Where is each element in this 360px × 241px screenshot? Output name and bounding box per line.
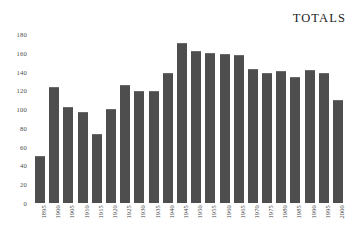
x-axis-tick-label: 1950 <box>196 205 203 219</box>
x-axis-tick-label: 1935 <box>154 205 161 219</box>
bar-series <box>33 34 345 203</box>
plot-area <box>33 33 345 203</box>
y-axis-tick-label: 0 <box>24 200 28 207</box>
x-axis-slot: 1980 <box>274 204 288 240</box>
x-axis-slot: 1915 <box>90 204 104 240</box>
bar-slot <box>288 34 302 203</box>
bar-slot <box>274 34 288 203</box>
y-axis-tick-label: 100 <box>17 106 28 113</box>
x-axis-tick-label: 1980 <box>281 205 288 219</box>
bar <box>49 87 59 203</box>
y-axis-tick-label: 20 <box>20 181 27 188</box>
x-axis-slot: 1905 <box>61 204 75 240</box>
x-axis-tick-label: 1905 <box>68 205 75 219</box>
x-axis-slot: 1965 <box>232 204 246 240</box>
bar <box>177 43 187 203</box>
bar-slot <box>232 34 246 203</box>
x-axis-slot: 1985 <box>288 204 302 240</box>
x-axis-tick-label: 2000 <box>338 205 345 219</box>
x-axis-tick-label: 1900 <box>54 205 61 219</box>
bar <box>333 100 343 203</box>
x-axis-slot: 1960 <box>217 204 231 240</box>
bar <box>319 73 329 203</box>
x-axis: 1895190019051910191519201925193019351940… <box>33 204 345 240</box>
x-axis-tick-label: 1945 <box>182 205 189 219</box>
bar-slot <box>61 34 75 203</box>
y-axis-tick-label: 80 <box>20 124 27 131</box>
x-axis-slot: 1925 <box>118 204 132 240</box>
y-axis: 180160140120100806040200 <box>0 33 31 203</box>
x-axis-slot: 1945 <box>175 204 189 240</box>
bar-slot <box>217 34 231 203</box>
y-axis-tick-label: 120 <box>17 87 28 94</box>
bar-slot <box>175 34 189 203</box>
bar <box>262 73 272 203</box>
bar-slot <box>90 34 104 203</box>
bar-slot <box>303 34 317 203</box>
bar <box>134 91 144 203</box>
bar-slot <box>132 34 146 203</box>
x-axis-slot: 1900 <box>47 204 61 240</box>
bar <box>276 71 286 203</box>
x-axis-slot: 1930 <box>132 204 146 240</box>
bar <box>163 73 173 204</box>
y-axis-tick-label: 40 <box>20 162 27 169</box>
bar <box>92 134 102 203</box>
x-axis-tick-label: 1940 <box>168 205 175 219</box>
bar <box>248 69 258 203</box>
bar-slot <box>331 34 345 203</box>
bar <box>234 55 244 203</box>
x-axis-slot: 1940 <box>161 204 175 240</box>
x-axis-tick-label: 1920 <box>111 205 118 219</box>
x-axis-slot: 1920 <box>104 204 118 240</box>
bar <box>305 70 315 203</box>
x-axis-slot: 1935 <box>147 204 161 240</box>
chart-title: TOTALS <box>293 11 346 26</box>
x-axis-slot: 2000 <box>331 204 345 240</box>
x-axis-slot: 1950 <box>189 204 203 240</box>
bar <box>290 77 300 203</box>
bar <box>106 109 116 203</box>
bar <box>120 85 130 203</box>
bar-slot <box>104 34 118 203</box>
y-axis-tick-label: 180 <box>17 31 28 38</box>
bar-slot <box>189 34 203 203</box>
y-axis-tick-label: 140 <box>17 68 28 75</box>
x-axis-tick-label: 1910 <box>83 205 90 219</box>
bar-slot <box>246 34 260 203</box>
x-axis-slot: 1995 <box>317 204 331 240</box>
bar-slot <box>76 34 90 203</box>
bar <box>35 156 45 203</box>
totals-bar-chart: TOTALS 180160140120100806040200 18951900… <box>0 0 360 241</box>
bar-slot <box>118 34 132 203</box>
x-axis-tick-label: 1995 <box>324 205 331 219</box>
bar-slot <box>33 34 47 203</box>
x-axis-slot: 1895 <box>33 204 47 240</box>
x-axis-slot: 1955 <box>203 204 217 240</box>
bar-slot <box>203 34 217 203</box>
x-axis-slot: 1970 <box>246 204 260 240</box>
bar-slot <box>147 34 161 203</box>
x-axis-tick-label: 1990 <box>310 205 317 219</box>
bar-slot <box>317 34 331 203</box>
x-axis-tick-label: 1915 <box>97 205 104 219</box>
bar <box>220 54 230 203</box>
x-axis-slot: 1910 <box>76 204 90 240</box>
x-axis-tick-label: 1975 <box>267 205 274 219</box>
x-axis-slot: 1990 <box>303 204 317 240</box>
bar <box>205 53 215 203</box>
x-axis-tick-label: 1925 <box>125 205 132 219</box>
x-axis-tick-label: 1955 <box>210 205 217 219</box>
x-axis-tick-label: 1895 <box>40 205 47 219</box>
x-axis-tick-label: 1965 <box>239 205 246 219</box>
x-axis-tick-label: 1985 <box>295 205 302 219</box>
bar <box>149 91 159 203</box>
bar-slot <box>47 34 61 203</box>
bar-slot <box>161 34 175 203</box>
y-axis-tick-label: 160 <box>17 49 28 56</box>
y-axis-tick-label: 60 <box>20 143 27 150</box>
bar <box>191 51 201 203</box>
bar-slot <box>260 34 274 203</box>
bar <box>63 107 73 203</box>
bar <box>78 112 88 203</box>
